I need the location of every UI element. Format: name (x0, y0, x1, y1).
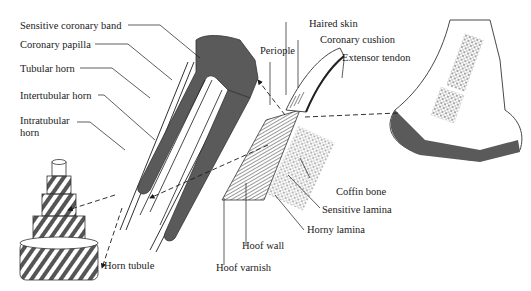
label-sensitive-coronary-band: Sensitive coronary band (20, 20, 121, 31)
papilla-section (120, 35, 258, 252)
label-intertubular-horn: Intertubular horn (20, 90, 91, 101)
label-periople: Periople (260, 45, 295, 56)
label-extensor-tendon: Extensor tendon (342, 52, 411, 63)
label-coffin-bone: Coffin bone (336, 186, 386, 197)
label-intratubular-horn-line2: horn (20, 127, 39, 138)
label-hoof-varnish: Hoof varnish (216, 262, 271, 273)
label-tubular-horn: Tubular horn (20, 63, 75, 74)
label-coronary-cushion: Coronary cushion (320, 34, 395, 45)
label-intratubular-horn-line1: Intratubular (20, 115, 70, 126)
label-horny-lamina: Horny lamina (307, 224, 365, 235)
label-haired-skin: Haired skin (309, 18, 358, 29)
label-horn-tubule: Horn tubule (104, 260, 154, 271)
label-hoof-wall: Hoof wall (242, 240, 284, 251)
label-sensitive-lamina: Sensitive lamina (322, 204, 392, 215)
hoof-cross-section (390, 20, 522, 162)
horn-tubule-illustration (20, 160, 98, 281)
label-coronary-papilla: Coronary papilla (20, 39, 91, 50)
